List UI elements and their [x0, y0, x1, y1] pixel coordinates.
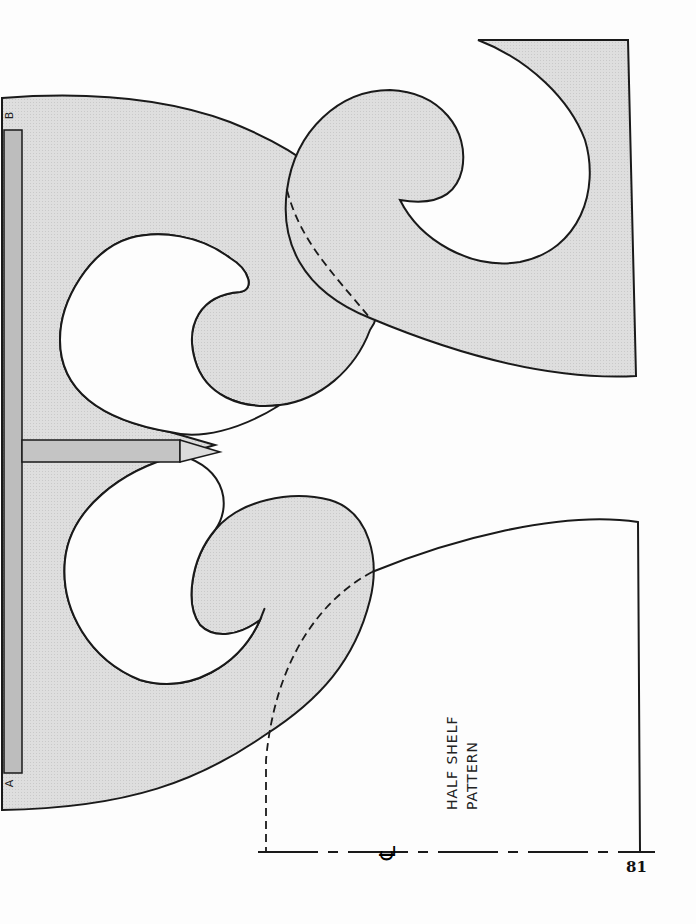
pattern-drawing	[0, 0, 696, 924]
pattern-label: HALF SHELF PATTERN	[442, 690, 542, 810]
pattern-page: B A HALF SHELF PATTERN ℄ 81	[0, 0, 696, 924]
pattern-label-line-1: HALF SHELF	[442, 690, 462, 810]
pattern-label-line-2: PATTERN	[462, 690, 482, 810]
edge-mark-a: A	[4, 780, 15, 788]
page-number: 81	[626, 858, 647, 876]
edge-mark-b: B	[4, 112, 15, 120]
centerline-icon: ℄	[375, 846, 400, 860]
